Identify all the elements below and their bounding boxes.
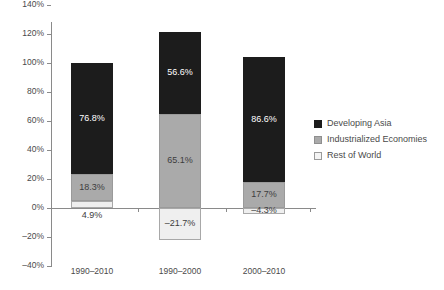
y-axis-line [51, 22, 52, 267]
x-axis-category-label: 2000–2010 [221, 266, 307, 276]
legend-label: Developing Asia [327, 117, 392, 129]
segment-value-label: –4.3% [221, 205, 307, 216]
y-tick-mark [47, 63, 51, 64]
segment-value-label: 18.3% [71, 182, 113, 193]
y-tick-mark [47, 179, 51, 180]
x-axis-category-label: 1990–2010 [49, 266, 135, 276]
legend-swatch-icon [314, 152, 322, 160]
segment-value-label: 86.6% [243, 114, 285, 125]
y-tick-mark [47, 5, 51, 6]
y-tick-label: –40% [10, 261, 44, 270]
bar-group[interactable]: 76.8%18.3% [71, 0, 113, 290]
y-tick-label: 140% [10, 0, 44, 9]
legend-label: Industrialized Economies [327, 133, 427, 145]
y-tick-label: –20% [10, 232, 44, 241]
legend-label: Rest of World [327, 149, 381, 161]
x-tick-mark [138, 208, 139, 212]
y-tick-label: 120% [10, 29, 44, 38]
y-tick-label: 0% [10, 203, 44, 212]
bar-segment[interactable] [71, 201, 113, 208]
y-tick-mark [47, 237, 51, 238]
bar-group[interactable]: 86.6%17.7% [243, 0, 285, 290]
y-tick-label: 80% [10, 87, 44, 96]
x-axis-category-label: 1990–2000 [137, 266, 223, 276]
segment-value-label: 4.9% [49, 210, 135, 221]
segment-value-label: 17.7% [243, 189, 285, 200]
y-tick-label: 60% [10, 116, 44, 125]
segment-value-label: 56.6% [159, 67, 201, 78]
segment-value-label: 76.8% [71, 113, 113, 124]
y-tick-mark [47, 121, 51, 122]
legend-swatch-icon [314, 136, 322, 144]
segment-value-label: 65.1% [159, 155, 201, 166]
y-tick-mark [47, 150, 51, 151]
y-tick-mark [47, 92, 51, 93]
y-tick-label: 40% [10, 145, 44, 154]
segment-value-label: –21.7% [137, 218, 223, 229]
x-tick-mark [310, 208, 311, 212]
y-tick-label: 100% [10, 58, 44, 67]
stacked-bar-chart: 140%120%100%80%60%40%20%0%–20%–40% 76.8%… [0, 0, 444, 290]
y-tick-mark [47, 34, 51, 35]
bar-group[interactable]: 56.6%65.1% [159, 0, 201, 290]
y-tick-label: 20% [10, 174, 44, 183]
legend-swatch-icon [314, 120, 322, 128]
